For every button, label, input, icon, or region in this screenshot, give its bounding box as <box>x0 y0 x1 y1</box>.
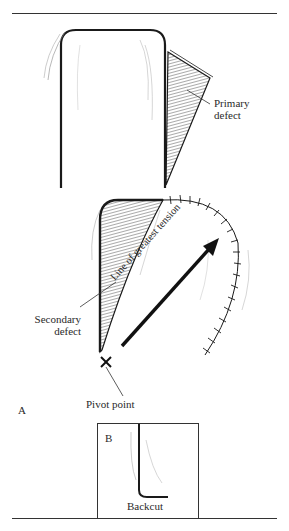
secondary-defect-label: Secondary defect <box>31 313 81 337</box>
primary-defect-label: Primary defect <box>214 97 249 121</box>
pivot-x-icon <box>101 357 111 367</box>
panel-a-label: A <box>18 404 26 416</box>
panel-b-label: B <box>105 432 112 444</box>
flap-illustration <box>0 0 289 531</box>
flap-top-drawing <box>44 30 213 188</box>
backcut-label: Backcut <box>127 500 163 512</box>
pivot-point-label: Pivot point <box>86 398 135 410</box>
